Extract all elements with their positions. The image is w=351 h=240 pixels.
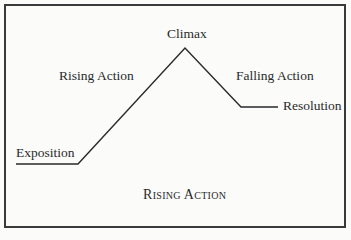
label-climax: Climax — [167, 27, 207, 41]
diagram-caption: Rising Action — [143, 188, 226, 202]
label-resolution: Resolution — [283, 99, 342, 113]
label-rising-action: Rising Action — [59, 69, 134, 83]
label-falling-action: Falling Action — [236, 69, 314, 83]
label-exposition: Exposition — [16, 146, 75, 160]
